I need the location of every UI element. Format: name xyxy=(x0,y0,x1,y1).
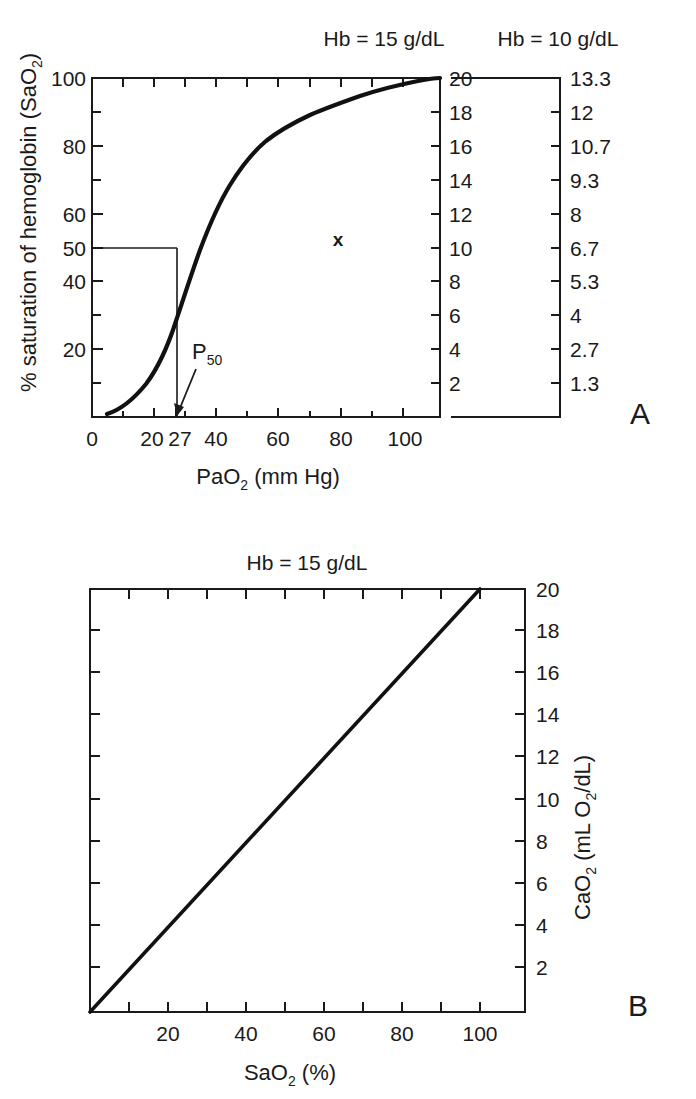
x-tick-27: 27 xyxy=(168,427,191,450)
panel-a-header-hb10: Hb = 10 g/dL xyxy=(498,27,619,50)
x-tick-100: 100 xyxy=(387,427,422,450)
panel-b-y-tick-labels: 20 18 16 14 12 10 8 6 4 2 xyxy=(536,578,560,979)
hb10-tick-12: 12 xyxy=(570,101,593,124)
x-tick-0: 0 xyxy=(86,427,98,450)
panel-b-x-tick-labels: 20 40 60 80 100 xyxy=(156,1022,497,1045)
panel-b-bottom-ticks xyxy=(129,1002,480,1012)
hb10-tick-6-7: 6.7 xyxy=(570,237,599,260)
oxyhemoglobin-dissociation-curve-path xyxy=(107,78,440,414)
panel-a-secondary-hb15-ticks xyxy=(431,78,440,383)
x-tick-80: 80 xyxy=(329,427,352,450)
panel-b-title: Hb = 15 g/dL xyxy=(247,551,368,574)
hb15-tick-20: 20 xyxy=(449,67,472,90)
hb15-tick-6: 6 xyxy=(449,304,461,327)
panel-a-secondary-hb15-labels: 20 18 16 14 12 10 8 6 4 2 xyxy=(449,67,473,395)
hb10-tick-5-3: 5.3 xyxy=(570,270,599,293)
figure-container: Hb = 15 g/dL Hb = 10 g/dL xyxy=(0,0,696,1099)
panel-b-cao2-vs-sao2: Hb = 15 g/dL xyxy=(0,520,696,1099)
hb10-tick-4: 4 xyxy=(570,304,582,327)
panel-b-letter: B xyxy=(628,989,648,1022)
b-y-tick-20: 20 xyxy=(536,578,559,601)
hb15-tick-12: 12 xyxy=(449,203,472,226)
b-x-tick-100: 100 xyxy=(462,1022,497,1045)
panel-a-secondary-hb10-ticks xyxy=(551,78,560,383)
y-tick-80: 80 xyxy=(63,135,86,158)
data-point-marker-x: x xyxy=(333,229,344,250)
hb15-tick-4: 4 xyxy=(449,338,461,361)
b-y-tick-18: 18 xyxy=(536,619,559,642)
b-y-tick-4: 4 xyxy=(536,914,548,937)
b-y-tick-8: 8 xyxy=(536,830,548,853)
b-x-tick-20: 20 xyxy=(156,1022,179,1045)
x-tick-60: 60 xyxy=(266,427,289,450)
panel-a-x-axis-title: PaO2 (mm Hg) xyxy=(196,464,339,493)
b-x-tick-80: 80 xyxy=(390,1022,413,1045)
hb15-tick-16: 16 xyxy=(449,135,472,158)
panel-a-y-ticks xyxy=(92,78,103,383)
panel-a-secondary-hb10-labels: 13.3 12 10.7 9.3 8 6.7 5.3 4 2.7 1.3 xyxy=(570,67,611,395)
p50-arrow-line xyxy=(180,369,196,408)
panel-a-x-top-ticks xyxy=(123,78,403,87)
b-y-tick-12: 12 xyxy=(536,745,559,768)
b-x-tick-40: 40 xyxy=(234,1022,257,1045)
hb10-tick-2-7: 2.7 xyxy=(570,338,599,361)
panel-b-svg: Hb = 15 g/dL xyxy=(0,520,696,1099)
x-tick-40: 40 xyxy=(204,427,227,450)
panel-a-x-tick-labels: 0 20 27 40 60 80 100 xyxy=(86,427,422,450)
hb10-tick-13-3: 13.3 xyxy=(570,67,611,90)
b-x-tick-60: 60 xyxy=(312,1022,335,1045)
y-tick-60: 60 xyxy=(63,203,86,226)
hb15-tick-18: 18 xyxy=(449,101,472,124)
y-tick-40: 40 xyxy=(63,270,86,293)
panel-a-oxyhemoglobin-dissociation-curve: Hb = 15 g/dL Hb = 10 g/dL xyxy=(0,0,696,500)
y-tick-50: 50 xyxy=(63,237,86,260)
hb15-tick-8: 8 xyxy=(449,270,461,293)
panel-a-y-axis-title: % saturation of hemoglobin (SaO2) xyxy=(16,53,45,392)
panel-b-y-axis-title: CaO2 (mL O2/dL) xyxy=(570,755,599,920)
cao2-linear-line-path xyxy=(90,589,480,1012)
b-y-tick-14: 14 xyxy=(536,703,560,726)
panel-a-y-tick-labels: 100 80 60 50 40 20 xyxy=(51,67,86,361)
hb10-tick-8: 8 xyxy=(570,203,582,226)
panel-b-top-ticks xyxy=(129,589,480,599)
hb10-tick-1-3: 1.3 xyxy=(570,372,599,395)
panel-a-letter: A xyxy=(630,397,650,430)
p50-annotation-label: P50 xyxy=(192,339,222,368)
panel-b-x-axis-title: SaO2 (%) xyxy=(244,1060,336,1089)
b-y-tick-10: 10 xyxy=(536,788,559,811)
panel-b-right-ticks xyxy=(515,589,525,967)
hb15-tick-10: 10 xyxy=(449,237,472,260)
b-y-tick-2: 2 xyxy=(536,956,548,979)
hb15-tick-2: 2 xyxy=(449,372,461,395)
panel-a-svg: Hb = 15 g/dL Hb = 10 g/dL xyxy=(0,0,696,500)
b-y-tick-16: 16 xyxy=(536,661,559,684)
y-tick-100: 100 xyxy=(51,67,86,90)
b-y-tick-6: 6 xyxy=(536,872,548,895)
panel-b-left-ticks xyxy=(90,630,100,967)
y-tick-20: 20 xyxy=(63,338,86,361)
hb10-tick-10-7: 10.7 xyxy=(570,135,611,158)
hb15-tick-14: 14 xyxy=(449,169,473,192)
x-tick-20: 20 xyxy=(140,427,163,450)
panel-a-header-hb15: Hb = 15 g/dL xyxy=(324,27,445,50)
hb10-tick-9-3: 9.3 xyxy=(570,169,599,192)
